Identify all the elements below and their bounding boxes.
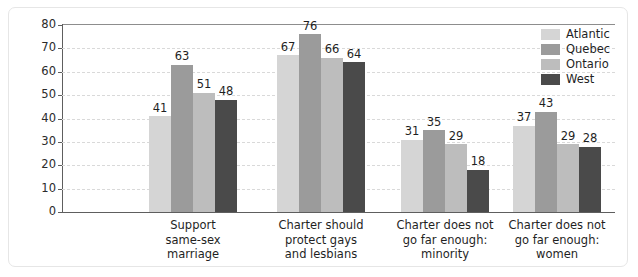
bar-group: 41635148 [149, 25, 237, 212]
chart-page: 80706050403020100 Per cent 4163514867766… [0, 0, 638, 277]
bar-quebec-2[interactable]: 35 [423, 25, 445, 212]
y-tick-label-70: 70 [30, 43, 56, 55]
bar-value-label: 29 [449, 131, 464, 143]
bar-atlantic-0[interactable]: 41 [149, 25, 171, 212]
bar-value-label: 41 [153, 103, 168, 115]
legend-swatch-icon [541, 29, 560, 40]
bar-rect [171, 65, 193, 212]
legend-item-quebec[interactable]: Quebec [541, 43, 610, 56]
bar-value-label: 18 [471, 156, 486, 168]
bar-west-0[interactable]: 48 [215, 25, 237, 212]
bar-ontario-1[interactable]: 66 [321, 25, 343, 212]
bar-rect [299, 34, 321, 212]
y-tick-label-50: 50 [30, 89, 56, 101]
bar-rect [215, 100, 237, 212]
legend-swatch-icon [541, 74, 560, 85]
bar-value-label: 35 [427, 117, 442, 129]
bar-rect [321, 58, 343, 212]
bar-rect [149, 116, 171, 212]
bar-rect [193, 93, 215, 212]
bar-quebec-0[interactable]: 63 [171, 25, 193, 212]
bar-value-label: 29 [561, 131, 576, 143]
bar-ontario-0[interactable]: 51 [193, 25, 215, 212]
x-axis-line [62, 212, 615, 213]
y-tick-label-80: 80 [30, 19, 56, 31]
bar-rect [467, 170, 489, 212]
category-label-1: Charter should protect gays and lesbians [256, 218, 386, 262]
bar-rect [277, 55, 299, 212]
legend-label: Quebec [566, 44, 610, 56]
bar-rect [535, 112, 557, 213]
y-tick-label-20: 20 [30, 160, 56, 172]
bar-rect [423, 130, 445, 212]
bar-rect [513, 126, 535, 212]
bar-value-label: 37 [517, 112, 532, 124]
category-label-3: Charter does not go far enough: women [492, 218, 622, 262]
bar-atlantic-3[interactable]: 37 [513, 25, 535, 212]
bar-atlantic-2[interactable]: 31 [401, 25, 423, 212]
bar-value-label: 43 [539, 98, 554, 110]
legend-label: West [566, 74, 594, 86]
bar-quebec-1[interactable]: 76 [299, 25, 321, 212]
bar-value-label: 31 [405, 126, 420, 138]
bar-value-label: 48 [219, 86, 234, 98]
bar-west-1[interactable]: 64 [343, 25, 365, 212]
y-tick-label-40: 40 [30, 113, 56, 125]
y-tick-label-0: 0 [30, 206, 56, 218]
category-label-0: Support same-sex marriage [128, 218, 258, 262]
bar-value-label: 28 [583, 133, 598, 145]
bar-rect [557, 144, 579, 212]
bar-ontario-2[interactable]: 29 [445, 25, 467, 212]
bar-group: 67766664 [277, 25, 365, 212]
legend-label: Atlantic [566, 29, 610, 41]
x-axis-category-labels: Support same-sex marriageCharter should … [62, 218, 615, 270]
category-label-2: Charter does not go far enough: minority [380, 218, 510, 262]
bar-value-label: 51 [197, 79, 212, 91]
y-tick-label-30: 30 [30, 136, 56, 148]
bar-value-label: 67 [281, 42, 296, 54]
y-tick-label-60: 60 [30, 66, 56, 78]
legend-item-west[interactable]: West [541, 73, 610, 86]
bar-value-label: 76 [303, 21, 318, 33]
bar-value-label: 66 [325, 44, 340, 56]
bar-rect [401, 140, 423, 212]
legend-swatch-icon [541, 44, 560, 55]
y-axis-tick-labels: 80706050403020100 [26, 25, 56, 212]
legend-label: Ontario [566, 59, 609, 71]
chart-legend: AtlanticQuebecOntarioWest [541, 28, 610, 86]
bar-rect [445, 144, 467, 212]
bar-atlantic-1[interactable]: 67 [277, 25, 299, 212]
bar-group: 31352918 [401, 25, 489, 212]
bar-rect [579, 147, 601, 212]
bar-west-2[interactable]: 18 [467, 25, 489, 212]
bar-rect [343, 62, 365, 212]
y-tick-label-10: 10 [30, 183, 56, 195]
legend-item-ontario[interactable]: Ontario [541, 58, 610, 71]
legend-swatch-icon [541, 59, 560, 70]
bar-value-label: 64 [347, 49, 362, 61]
plot-area: 41635148677666643135291837432928 [62, 25, 615, 212]
legend-item-atlantic[interactable]: Atlantic [541, 28, 610, 41]
bar-value-label: 63 [175, 51, 190, 63]
